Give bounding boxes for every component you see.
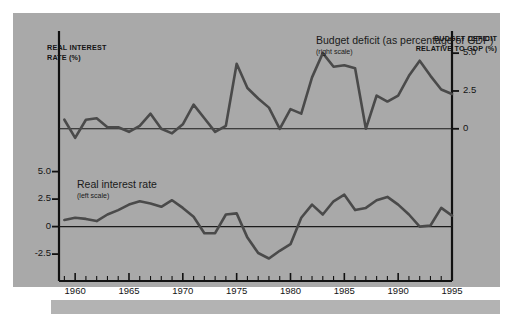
x-axis-tick-label: 1990 — [378, 285, 418, 296]
left-axis-tick-label: 0 — [13, 220, 51, 231]
chart-panel: REAL INTEREST RATE (%) BUDGET DEFICIT RE… — [13, 13, 500, 287]
deficit-annotation-label: Budget deficit (as percentage of GDP) — [316, 35, 493, 47]
left-axis-title: REAL INTEREST RATE (%) — [47, 43, 107, 62]
axis-lines — [59, 31, 452, 281]
x-axis-tick-label: 1975 — [217, 285, 257, 296]
x-axis-tick-label: 1960 — [55, 285, 95, 296]
footer-bar — [51, 300, 500, 314]
rate-series-annotation: Real interest rate (left scale) — [77, 179, 157, 200]
left-axis-tick-label: -2.5 — [13, 247, 51, 258]
right-axis-tick-label: 5.0 — [463, 46, 497, 57]
rate-annotation-label: Real interest rate — [77, 179, 157, 191]
x-axis-tick-label: 1965 — [109, 285, 149, 296]
x-axis-tick-label: 1995 — [432, 285, 472, 296]
figure-root: REAL INTEREST RATE (%) BUDGET DEFICIT RE… — [0, 0, 517, 316]
x-axis-tick-label: 1980 — [270, 285, 310, 296]
right-axis-tick-label: 2.5 — [463, 84, 497, 95]
data-series-group — [64, 53, 452, 258]
x-axis-tick-label: 1985 — [324, 285, 364, 296]
left-axis-tick-label: 2.5 — [13, 192, 51, 203]
rate-annotation-scale: (left scale) — [77, 191, 157, 200]
left-axis-tick-label: 5.0 — [13, 165, 51, 176]
axis-ticks — [52, 53, 459, 281]
right-axis-tick-label: 0 — [463, 122, 497, 133]
x-axis-tick-label: 1970 — [163, 285, 203, 296]
